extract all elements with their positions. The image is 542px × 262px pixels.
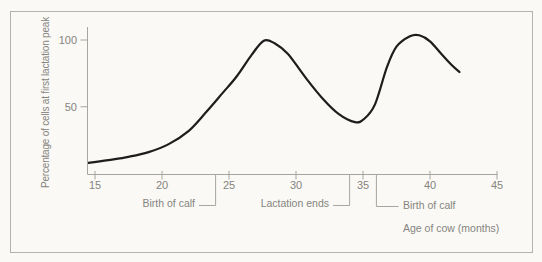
x-tick-label: 35: [357, 179, 369, 191]
y-tick-label: 50: [65, 101, 77, 113]
callout-line-birth-1: [199, 175, 216, 206]
annotation-birth-of-calf-2: Birth of calf: [403, 199, 456, 212]
annotation-lactation-ends: Lactation ends: [261, 197, 329, 210]
annotation-birth-of-calf-1: Birth of calf: [142, 197, 195, 210]
x-tick-label: 20: [156, 179, 168, 191]
x-tick-label: 15: [89, 179, 101, 191]
x-tick-label: 30: [290, 179, 302, 191]
tick-labels: 1520253035404550100: [59, 34, 503, 191]
callout-line-lactation: [333, 175, 350, 206]
x-tick-label: 45: [491, 179, 503, 191]
callout-line-birth-2: [376, 175, 398, 207]
x-tick-label: 40: [424, 179, 436, 191]
figure: 1520253035404550100 Percentage of cells …: [0, 0, 542, 262]
lactation-curve: [88, 35, 459, 163]
x-tick-label: 25: [223, 179, 235, 191]
x-axis-title: Age of cow (months): [403, 222, 499, 235]
y-tick-label: 100: [59, 34, 77, 46]
y-axis-title: Percentage of cells at first lactation p…: [39, 3, 52, 203]
